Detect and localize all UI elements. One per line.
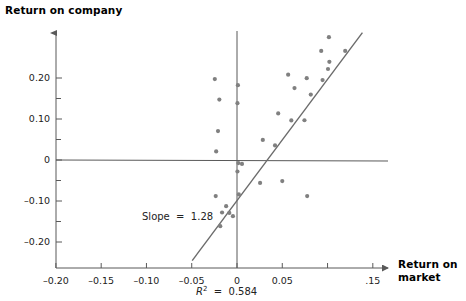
data-point xyxy=(237,192,241,196)
r2-symbol: R xyxy=(196,286,203,297)
x-tick-label: –0.10 xyxy=(124,275,168,286)
data-point xyxy=(236,83,240,87)
y-tick-label: –0.20 xyxy=(10,236,50,247)
data-point xyxy=(214,149,218,153)
data-point xyxy=(231,214,235,218)
data-point xyxy=(217,97,221,101)
x-tick-label: 0.05 xyxy=(260,275,304,286)
y-tick-label: 0.10 xyxy=(10,113,50,124)
y-axis-title: Return on company xyxy=(5,4,122,16)
x-tick-label: –0.05 xyxy=(170,275,214,286)
data-point xyxy=(280,179,284,183)
data-point xyxy=(286,73,290,77)
data-point xyxy=(214,194,218,198)
zero-horizontal-reference-line xyxy=(56,160,388,161)
y-tick-label: –0.10 xyxy=(10,195,50,206)
x-axis-title-line1: Return on xyxy=(398,258,458,270)
plot-frame xyxy=(56,33,388,268)
data-point xyxy=(218,224,222,228)
data-point xyxy=(235,169,239,173)
regression-line xyxy=(192,33,362,261)
x-tick-label: –0.15 xyxy=(79,275,123,286)
data-point xyxy=(258,181,262,185)
r2-equals: = xyxy=(207,286,228,297)
plot-canvas xyxy=(0,0,466,301)
slope-annotation: Slope = 1.28 xyxy=(142,211,213,222)
data-point xyxy=(227,211,231,215)
scatter-plot-figure: Return on company Return onmarket Slope … xyxy=(0,0,466,301)
x-tick-label: .15 xyxy=(351,275,395,286)
data-point xyxy=(236,161,240,165)
data-point xyxy=(327,60,331,64)
data-point xyxy=(327,35,331,39)
data-point xyxy=(220,210,224,214)
data-point xyxy=(224,204,228,208)
data-point xyxy=(320,78,324,82)
data-point xyxy=(326,67,330,71)
data-point xyxy=(289,118,293,122)
r2-value: 0.584 xyxy=(229,286,258,297)
data-point xyxy=(235,101,239,105)
data-point xyxy=(292,86,296,90)
x-axis-title-line2: market xyxy=(398,271,441,283)
x-axis-title: Return onmarket xyxy=(398,258,458,284)
data-points xyxy=(213,35,348,228)
data-point xyxy=(305,76,309,80)
reference-lines xyxy=(56,31,388,268)
data-point xyxy=(240,162,244,166)
data-point xyxy=(302,118,306,122)
r2-annotation: R2 = 0.584 xyxy=(196,285,257,297)
data-point xyxy=(261,138,265,142)
x-tick-label: 0 xyxy=(215,275,259,286)
data-point xyxy=(305,194,309,198)
x-axis-ticks xyxy=(56,263,373,268)
y-tick-label: 0 xyxy=(10,154,50,165)
y-tick-label: 0.20 xyxy=(10,72,50,83)
data-point xyxy=(276,111,280,115)
data-point xyxy=(216,129,220,133)
data-point xyxy=(273,143,277,147)
data-point xyxy=(309,93,313,97)
data-point xyxy=(343,49,347,53)
data-point xyxy=(213,77,217,81)
data-point xyxy=(319,49,323,53)
x-tick-label: –0.20 xyxy=(34,275,78,286)
